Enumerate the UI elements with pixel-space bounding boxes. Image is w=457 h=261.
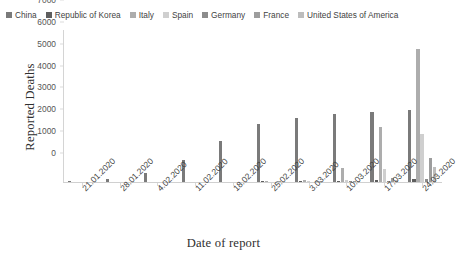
x-axis-title: Date of report bbox=[0, 236, 447, 251]
y-axis-tick-label: 3000 bbox=[37, 82, 56, 92]
bar bbox=[261, 181, 264, 182]
bar bbox=[144, 173, 147, 182]
bar bbox=[265, 181, 268, 182]
bar bbox=[420, 134, 423, 182]
legend-item[interactable]: United States of America bbox=[298, 11, 398, 20]
legend-item-label: France bbox=[263, 11, 289, 20]
y-axis-tick-label: 1000 bbox=[37, 126, 56, 136]
bar bbox=[341, 168, 344, 182]
y-axis-tick-label: 0 bbox=[51, 148, 56, 158]
legend-item-label: United States of America bbox=[307, 11, 398, 20]
bar bbox=[303, 180, 306, 182]
legend-item[interactable]: Germany bbox=[202, 11, 245, 20]
chart-legend: ChinaRepublic of KoreaItalySpainGermanyF… bbox=[6, 8, 444, 22]
legend-item[interactable]: France bbox=[254, 11, 289, 20]
bar bbox=[383, 169, 386, 182]
legend-swatch-icon bbox=[163, 12, 169, 18]
y-axis-tick-label: 2000 bbox=[37, 104, 56, 114]
bar-group bbox=[63, 30, 101, 182]
x-axis-tick-labels: 21.01.202028.01.20204.02.202011.02.20201… bbox=[63, 183, 441, 235]
legend-item-label: Germany bbox=[211, 11, 245, 20]
y-axis-tick-label: 5000 bbox=[37, 39, 56, 49]
bar bbox=[412, 179, 415, 182]
x-axis-tick-cell: 21.01.2020 bbox=[63, 183, 101, 235]
bar bbox=[106, 179, 109, 182]
bar bbox=[337, 181, 340, 182]
x-axis-tick-cell: 3.03.2020 bbox=[290, 183, 328, 235]
legend-swatch-icon bbox=[130, 12, 136, 18]
y-axis-tick-mark bbox=[60, 21, 64, 22]
legend-item[interactable]: Spain bbox=[163, 11, 193, 20]
legend-swatch-icon bbox=[254, 12, 260, 18]
legend-item-label: Republic of Korea bbox=[55, 11, 121, 20]
y-axis-tick-mark bbox=[60, 0, 64, 1]
x-axis-tick-cell: 10.03.2020 bbox=[328, 183, 366, 235]
x-axis-tick-cell: 18.02.2020 bbox=[214, 183, 252, 235]
x-axis-tick-cell: 28.01.2020 bbox=[101, 183, 139, 235]
legend-swatch-icon bbox=[298, 12, 304, 18]
plot-area bbox=[63, 30, 441, 182]
x-axis-tick-cell: 24.03.2020 bbox=[403, 183, 441, 235]
y-axis-tick-label: 4000 bbox=[37, 61, 56, 71]
legend-item-label: Italy bbox=[139, 11, 154, 20]
x-axis-tick-cell: 17.03.2020 bbox=[365, 183, 403, 235]
x-axis-tick-cell: 25.02.2020 bbox=[252, 183, 290, 235]
bar bbox=[299, 181, 302, 182]
legend-item-label: Spain bbox=[172, 11, 193, 20]
legend-item[interactable]: Italy bbox=[130, 11, 154, 20]
bar bbox=[68, 181, 71, 182]
y-axis-tick-label: 7000 bbox=[37, 0, 56, 5]
bar bbox=[375, 180, 378, 182]
x-axis-tick-cell: 4.02.2020 bbox=[139, 183, 177, 235]
legend-swatch-icon bbox=[202, 12, 208, 18]
bar bbox=[379, 127, 382, 182]
y-axis-tick-label: 6000 bbox=[37, 17, 56, 27]
y-axis-ticks: 01000200030004000500060007000 bbox=[0, 0, 63, 153]
x-axis-tick-cell: 11.02.2020 bbox=[176, 183, 214, 235]
